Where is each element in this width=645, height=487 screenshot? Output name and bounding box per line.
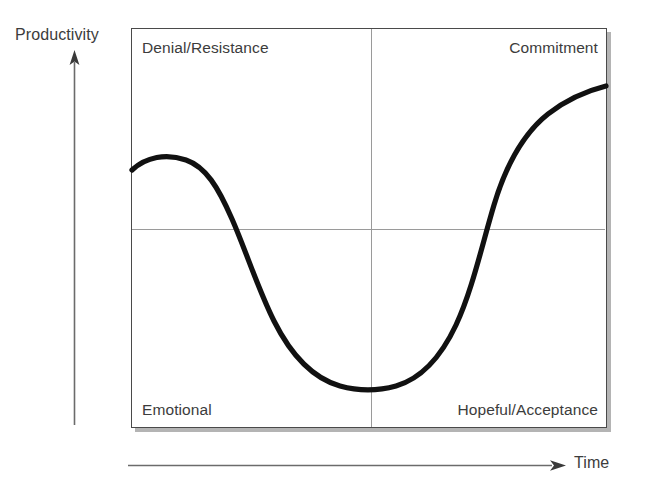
x-axis-arrow	[128, 460, 566, 470]
plot-area: Denial/Resistance Commitment Emotional H…	[131, 28, 607, 428]
y-axis-title: Productivity	[15, 26, 99, 44]
figure-canvas: Productivity Denial/Resistance Commitmen…	[0, 0, 645, 487]
change-curve	[132, 29, 606, 427]
quadrant-label-commitment: Commitment	[509, 39, 598, 57]
quadrant-label-emotional: Emotional	[142, 401, 212, 419]
quadrant-label-denial-resistance: Denial/Resistance	[142, 39, 269, 57]
y-axis-arrow	[70, 50, 80, 425]
quadrant-label-hopeful-acceptance: Hopeful/Acceptance	[457, 401, 598, 419]
change-curve-path	[132, 86, 606, 390]
x-axis-title: Time	[574, 454, 609, 472]
